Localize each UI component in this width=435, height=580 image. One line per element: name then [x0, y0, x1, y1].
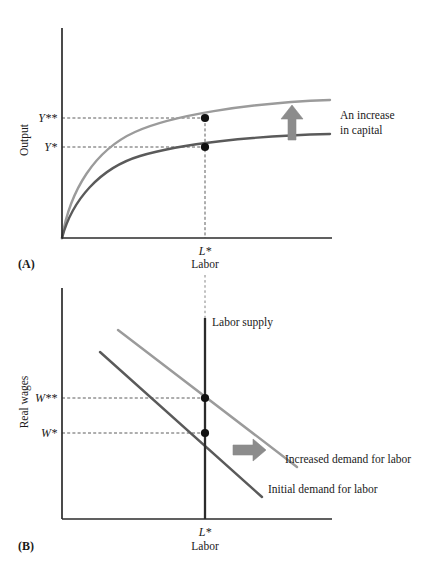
annotation-increase-capital-line1: An increase: [340, 109, 395, 121]
curve-initial-labor-demand: [100, 352, 262, 497]
point-equilibrium-initial-a: [201, 143, 209, 151]
economics-figure: Output Y** Y* L* Labor An increase in ca…: [0, 0, 435, 580]
panel-a-x-tick-l-star: L*: [198, 244, 212, 258]
annotation-increase-capital-line2: in capital: [340, 124, 382, 137]
panel-b-y-axis-label: Real wages: [18, 375, 31, 428]
panel-b: Real wages W** W* L* Labor Labor supply …: [18, 288, 411, 553]
panel-a-y-tick-y-star: Y*: [44, 140, 57, 154]
panel-a-label: (A): [18, 257, 35, 271]
figure-container: Output Y** Y* L* Labor An increase in ca…: [0, 0, 435, 580]
curve-initial-production: [62, 134, 330, 238]
point-equilibrium-shifted-b: [201, 394, 209, 402]
panel-b-y-tick-w-double-star: W**: [35, 391, 57, 405]
label-initial-demand-for-labor: Initial demand for labor: [268, 483, 378, 495]
panel-b-y-tick-w-star: W*: [41, 426, 57, 440]
arrow-right-icon: [233, 439, 266, 461]
label-increased-demand-for-labor: Increased demand for labor: [285, 453, 411, 465]
point-equilibrium-shifted-a: [201, 114, 209, 122]
panel-b-x-tick-l-star: L*: [198, 525, 212, 539]
panel-b-label: (B): [18, 539, 34, 553]
panel-a-y-axis-label: Output: [18, 123, 31, 156]
panel-a-x-axis-label: Labor: [191, 258, 219, 270]
panel-b-x-axis-label: Labor: [191, 540, 219, 552]
panel-a-y-tick-y-double-star: Y**: [38, 111, 57, 125]
point-equilibrium-initial-b: [201, 429, 209, 437]
label-labor-supply: Labor supply: [212, 316, 273, 329]
panel-a: Output Y** Y* L* Labor An increase in ca…: [18, 28, 395, 271]
